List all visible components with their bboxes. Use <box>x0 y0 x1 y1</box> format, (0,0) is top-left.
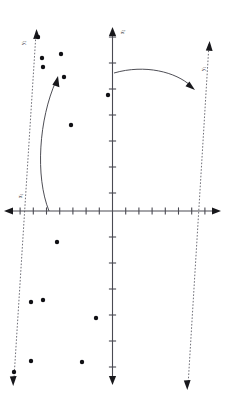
x2-label-sub: 2 <box>122 29 126 31</box>
svg-text:x1: x1 <box>17 193 24 198</box>
data-point <box>40 56 44 60</box>
pc1-axis-arrowhead-lower <box>184 380 191 390</box>
data-point <box>59 52 63 56</box>
pc2-label-sub: 2 <box>23 40 27 42</box>
x2-axis-arrowhead-up <box>109 27 116 36</box>
data-point <box>41 298 45 302</box>
pc2-axis-arrowhead-lower <box>10 376 17 386</box>
data-point <box>94 316 98 320</box>
data-point <box>36 35 40 39</box>
x1-axis-arrowhead-left <box>4 207 13 214</box>
svg-text:y2: y2 <box>20 40 27 45</box>
data-points-layer <box>12 35 110 374</box>
rotation-arc-horizontal-arrowhead <box>52 76 59 87</box>
svg-text:y1: y1 <box>200 66 207 71</box>
data-point <box>69 123 73 127</box>
principal-axes-scatter-figure: x1 x2 y1 y2 <box>0 0 225 414</box>
data-point <box>62 75 66 79</box>
rotation-arc-vertical <box>114 69 195 90</box>
data-point <box>29 300 33 304</box>
x1-axis-arrowhead-right <box>212 207 221 214</box>
x1-axis-label: x1 <box>17 193 24 198</box>
data-point <box>106 93 110 97</box>
x1-label-sub: 1 <box>20 193 24 195</box>
pc1-axis-label: y1 <box>200 66 207 71</box>
pc1-axis-arrowhead-upper <box>206 41 213 51</box>
x2-axis-arrowhead-down <box>109 376 116 385</box>
pc1-axis <box>184 41 213 390</box>
x2-axis-label: x2 <box>119 29 126 34</box>
data-point <box>12 370 16 374</box>
data-point <box>55 240 59 244</box>
pc2-axis <box>10 29 40 386</box>
x2-axis <box>109 27 116 385</box>
data-point <box>41 65 45 69</box>
pc1-label-sub: 1 <box>203 66 207 68</box>
data-point <box>80 360 84 364</box>
svg-text:x2: x2 <box>119 29 126 34</box>
pc2-axis-label: y2 <box>20 40 27 45</box>
data-point <box>29 359 33 363</box>
rotation-arc-horizontal <box>41 76 60 211</box>
